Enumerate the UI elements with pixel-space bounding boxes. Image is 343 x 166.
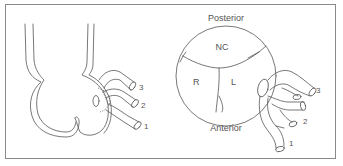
label-left-cusp: L [231,77,236,87]
label-anterior: Anterior [210,123,242,133]
left-label-1: 1 [144,122,149,131]
right-label-3: 3 [316,86,321,95]
left-label-3: 3 [139,83,144,92]
right-ostium [256,78,270,98]
right-label-2: 2 [303,117,308,126]
label-noncoronary-cusp: NC [216,42,229,52]
left-vessels [99,70,142,130]
left-ostium [93,88,110,112]
label-posterior: Posterior [208,13,244,23]
right-aortic-valve [176,26,276,126]
left-aortic-root [25,24,111,137]
label-right-cusp: R [193,77,200,87]
diagram-canvas: 3 2 1 Posterior Anterior NC R L [0,0,343,166]
right-label-1: 1 [289,139,294,148]
left-label-2: 2 [141,101,146,110]
